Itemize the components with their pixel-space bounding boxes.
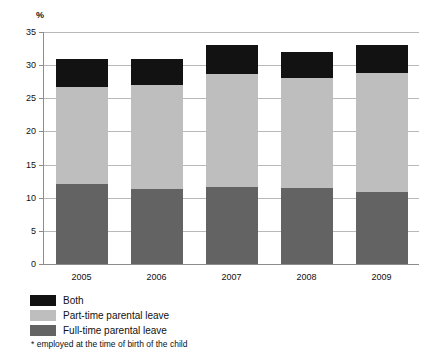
legend-label: Part-time parental leave [63,310,169,321]
bar-segment-both-2007[interactable] [206,45,258,74]
bar-group-2008[interactable] [281,32,333,264]
bar-group-2005[interactable] [56,32,108,264]
chart-legend: BothPart-time parental leaveFull-time pa… [30,293,350,338]
bar-segment-both-2008[interactable] [281,52,333,79]
bar-segment-part_time-2009[interactable] [356,73,408,192]
bar-segment-full_time-2008[interactable] [281,188,333,264]
x-tick-label-2005: 2005 [44,272,119,282]
legend-item-part-time-parental-leave[interactable]: Part-time parental leave [30,308,350,322]
bar-group-2009[interactable] [356,32,408,264]
bar-segment-both-2006[interactable] [131,59,183,86]
legend-swatch-icon [30,295,56,306]
bar-stack [56,32,108,264]
y-tick-10 [39,198,43,199]
bar-segment-full_time-2009[interactable] [356,192,408,264]
bar-segment-both-2009[interactable] [356,45,408,73]
bar-stack [206,32,258,264]
bar-segment-part_time-2007[interactable] [206,74,258,187]
y-tick-label-25: 25 [2,93,36,103]
legend-swatch-icon [30,310,56,321]
bar-stack [131,32,183,264]
chart-footnote: * employed at the time of birth of the c… [31,339,187,349]
y-tick-label-0: 0 [2,259,36,269]
y-axis-unit-label: % [36,10,44,20]
bar-segment-part_time-2006[interactable] [131,85,183,189]
bar-segment-part_time-2005[interactable] [56,87,108,184]
y-tick-label-5: 5 [2,226,36,236]
y-tick-30 [39,65,43,66]
stacked-bar-chart: % 05101520253035 20052006200720082009 Bo… [0,0,429,360]
bar-segment-both-2005[interactable] [56,59,108,88]
bar-segment-full_time-2006[interactable] [131,189,183,264]
x-tick-label-2007: 2007 [194,272,269,282]
x-tick-label-2009: 2009 [344,272,419,282]
y-tick-20 [39,131,43,132]
bar-group-2007[interactable] [206,32,258,264]
x-tick-label-2006: 2006 [119,272,194,282]
y-tick-label-35: 35 [2,27,36,37]
bar-segment-full_time-2005[interactable] [56,184,108,264]
y-tick-label-15: 15 [2,160,36,170]
y-tick-25 [39,98,43,99]
y-tick-label-30: 30 [2,60,36,70]
gridline-0 [44,264,419,265]
bar-group-2006[interactable] [131,32,183,264]
y-tick-35 [39,32,43,33]
bar-stack [281,32,333,264]
y-tick-0 [39,264,43,265]
y-tick-5 [39,231,43,232]
plot-area [44,32,419,264]
bar-stack [356,32,408,264]
y-tick-label-20: 20 [2,126,36,136]
bar-segment-full_time-2007[interactable] [206,187,258,264]
bar-segment-part_time-2008[interactable] [281,78,333,187]
legend-label: Full-time parental leave [63,325,167,336]
y-tick-label-10: 10 [2,193,36,203]
y-tick-15 [39,165,43,166]
legend-swatch-icon [30,325,56,336]
x-tick-label-2008: 2008 [269,272,344,282]
legend-item-both[interactable]: Both [30,293,350,307]
legend-label: Both [63,295,84,306]
legend-item-full-time-parental-leave[interactable]: Full-time parental leave [30,323,350,337]
